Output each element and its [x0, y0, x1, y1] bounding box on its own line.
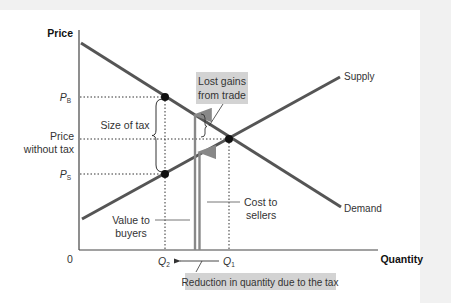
y-axis-label: Price [47, 27, 73, 39]
x-axis-label: Quantity [380, 253, 423, 265]
buyers-price-label: PB [60, 91, 71, 104]
lost-gains-label-1: Lost gains [198, 75, 246, 87]
origin-label: 0 [67, 253, 73, 265]
size-of-tax-label: Size of tax [100, 119, 150, 131]
lost-gains-leader [209, 104, 223, 126]
cost-to-sellers-label-1: Cost to [244, 196, 277, 208]
sellers-price-label: PS [60, 168, 72, 181]
q1-label: Q1 [223, 255, 235, 268]
value-to-buyers-label-2: buyers [115, 227, 147, 239]
cost-to-sellers-label-2: sellers [246, 209, 276, 221]
sellers-price-point [161, 170, 169, 178]
no-tax-price-label-1: Price [50, 130, 74, 142]
buyers-price-point [161, 93, 169, 101]
value-to-buyers-label-1: Value to [112, 214, 150, 226]
no-tax-price-label-2: without tax [23, 143, 75, 155]
tax-deadweight-diagram: Lost gains from trade Price Quantity 0 P… [0, 0, 451, 303]
demand-label: Demand [344, 203, 382, 214]
reduction-leader [196, 261, 202, 272]
lost-gains-label-2: from trade [198, 89, 246, 101]
reduction-label: Reduction in quantity due to the tax [182, 277, 339, 288]
supply-label: Supply [344, 71, 375, 82]
equilibrium-point [225, 135, 233, 143]
size-of-tax-brace [152, 99, 163, 172]
lost-gains-brace [201, 114, 207, 137]
q2-label: Q2 [158, 255, 170, 268]
